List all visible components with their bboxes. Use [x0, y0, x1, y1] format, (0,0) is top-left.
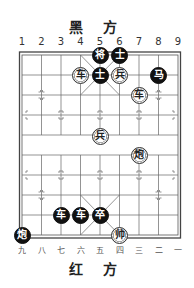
bottom-file-numbers: 九 八 七 六 五 四 三 二 一 — [0, 244, 194, 256]
black-chariot-piece[interactable]: 车 — [72, 207, 89, 224]
black-general-piece[interactable]: 将 — [92, 47, 109, 64]
red-soldier-piece[interactable]: 兵 — [92, 128, 109, 145]
red-cannon-piece[interactable]: 炮 — [131, 147, 148, 164]
red-general-piece[interactable]: 帅 — [111, 227, 128, 244]
file-label: 三 — [132, 244, 146, 255]
red-chariot-piece[interactable]: 车 — [131, 87, 148, 104]
file-label: 九 — [15, 244, 29, 255]
red-soldier-piece[interactable]: 兵 — [111, 67, 128, 84]
file-label: 七 — [54, 244, 68, 255]
black-soldier-piece[interactable]: 卒 — [92, 207, 109, 224]
file-label: 一 — [171, 244, 185, 255]
red-side-label: 红 方 — [0, 258, 194, 278]
black-horse-piece[interactable]: 马 — [150, 67, 167, 84]
file-label: 八 — [35, 244, 49, 255]
black-advisor-piece[interactable]: 士 — [92, 67, 109, 84]
file-label: 六 — [74, 244, 88, 255]
file-label: 五 — [93, 244, 107, 255]
black-chariot-piece[interactable]: 车 — [53, 207, 70, 224]
file-label: 二 — [152, 244, 166, 255]
black-cannon-piece[interactable]: 炮 — [14, 227, 31, 244]
black-advisor-piece[interactable]: 士 — [111, 47, 128, 64]
file-label: 四 — [113, 244, 127, 255]
red-chariot-piece[interactable]: 车 — [72, 67, 89, 84]
